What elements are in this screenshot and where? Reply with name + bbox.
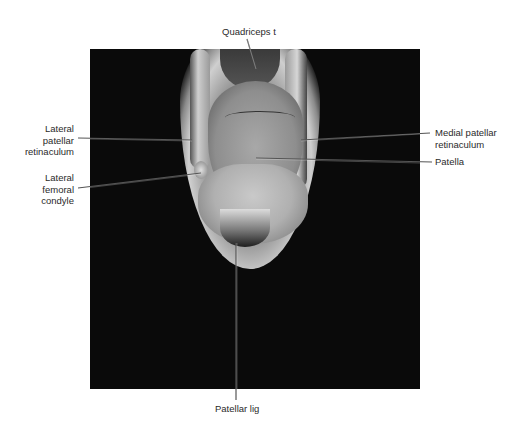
label-lateral-femoral-condyle: Lateral femoral condyle <box>14 172 74 207</box>
left-tendon <box>190 49 210 169</box>
label-lateral-patellar-retinaculum: Lateral patellar retinaculum <box>14 123 74 158</box>
label-patella: Patella <box>435 156 464 168</box>
ligament-dark <box>220 209 270 247</box>
label-medial-patellar-retinaculum: Medial patellar retinaculum <box>435 127 497 150</box>
cartilage-line <box>225 111 295 124</box>
lateral-condyle-spot <box>194 161 208 179</box>
anatomy-figure: Quadriceps t Lateral patellar retinaculu… <box>0 0 513 429</box>
mri-image <box>90 49 420 389</box>
label-patellar-lig: Patellar lig <box>215 403 259 415</box>
label-quadriceps: Quadriceps t <box>222 26 276 38</box>
